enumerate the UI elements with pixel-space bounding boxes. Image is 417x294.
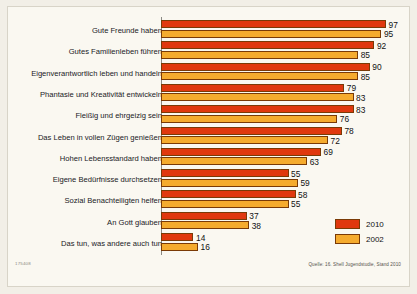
bar-2010 xyxy=(161,127,342,135)
bar-2010 xyxy=(161,190,296,198)
bar-2002 xyxy=(161,157,307,165)
bar-value-label: 38 xyxy=(252,222,261,230)
bar-group: Gute Freunde haben9795 xyxy=(8,20,411,38)
legend-label-2010: 2010 xyxy=(366,220,384,229)
bar-2010 xyxy=(161,148,321,156)
bar-value-label: 55 xyxy=(291,170,300,178)
bar-value-label: 69 xyxy=(324,148,333,156)
bar-value-label: 97 xyxy=(389,21,398,29)
bar-2002 xyxy=(161,243,198,251)
bar-2002 xyxy=(161,72,358,80)
bar-value-label: 90 xyxy=(372,63,381,71)
bar-2002 xyxy=(161,51,358,59)
legend-swatch-2010 xyxy=(335,219,360,229)
bar-value-label: 83 xyxy=(356,94,365,102)
category-label: Eigene Bedürfnisse durchsetzen xyxy=(0,175,162,184)
source-note: Quelle: 16. Shell Jugendstudie, Stand 20… xyxy=(308,262,401,267)
bar-2010 xyxy=(161,233,193,241)
category-label: Eigenverantwortlich leben und handeln xyxy=(0,69,162,78)
legend-swatch-2002 xyxy=(335,234,360,244)
bar-group: Phantasie und Kreativität entwickeln7983 xyxy=(8,84,411,102)
category-label: Phantasie und Kreativität entwickeln xyxy=(0,90,162,99)
bar-group: Das Leben in vollen Zügen genießen7872 xyxy=(8,127,411,145)
chart-inner-frame: Gute Freunde haben9795Gutes Familienlebe… xyxy=(7,6,410,287)
bar-group: Sozial Benachteiligten helfen5855 xyxy=(8,190,411,208)
bar-value-label: 83 xyxy=(356,106,365,114)
bar-2002 xyxy=(161,136,328,144)
bar-2002 xyxy=(161,30,381,38)
bar-value-label: 59 xyxy=(300,179,309,187)
bar-2010 xyxy=(161,212,247,220)
bar-2010 xyxy=(161,84,344,92)
bar-2010 xyxy=(161,20,386,28)
bar-value-label: 55 xyxy=(291,200,300,208)
bar-value-label: 76 xyxy=(340,115,349,123)
bar-group: Eigenverantwortlich leben und handeln908… xyxy=(8,63,411,81)
bar-value-label: 92 xyxy=(377,42,386,50)
bar-value-label: 14 xyxy=(196,234,205,242)
bar-group: Fleißig und ehrgeizig sein8376 xyxy=(8,105,411,123)
legend-label-2002: 2002 xyxy=(366,235,384,244)
bar-value-label: 37 xyxy=(249,212,258,220)
bar-value-label: 58 xyxy=(298,191,307,199)
bar-value-label: 79 xyxy=(347,84,356,92)
bar-group: Eigene Bedürfnisse durchsetzen5559 xyxy=(8,169,411,187)
category-label: Gute Freunde haben xyxy=(0,26,162,35)
bar-value-label: 85 xyxy=(361,73,370,81)
document-id: 175408 xyxy=(15,261,31,266)
bar-2002 xyxy=(161,93,354,101)
bar-2010 xyxy=(161,105,354,113)
bar-2002 xyxy=(161,221,249,229)
bar-group: Hohen Lebensstandard haben6963 xyxy=(8,148,411,166)
legend-item-2002: 2002 xyxy=(335,233,405,246)
bar-2010 xyxy=(161,63,370,71)
chart-card: Gute Freunde haben9795Gutes Familienlebe… xyxy=(0,0,417,294)
bar-2002 xyxy=(161,179,298,187)
bar-value-label: 72 xyxy=(331,137,340,145)
category-label: Hohen Lebensstandard haben xyxy=(0,154,162,163)
category-label: Fleißig und ehrgeizig sein xyxy=(0,111,162,120)
bar-value-label: 95 xyxy=(384,30,393,38)
bar-value-label: 16 xyxy=(201,243,210,251)
category-label: An Gott glauben xyxy=(0,218,162,227)
category-label: Gutes Familienleben führen xyxy=(0,47,162,56)
category-label: Das Leben in vollen Zügen genießen xyxy=(0,133,162,142)
category-label: Sozial Benachteiligten helfen xyxy=(0,196,162,205)
bar-2002 xyxy=(161,200,289,208)
bar-value-label: 85 xyxy=(361,51,370,59)
bar-value-label: 78 xyxy=(344,127,353,135)
category-label: Das tun, was andere auch tun xyxy=(0,239,162,248)
legend-item-2010: 2010 xyxy=(335,218,405,231)
bar-2010 xyxy=(161,41,374,49)
bar-2010 xyxy=(161,169,289,177)
chart-legend: 2010 2002 xyxy=(335,218,405,248)
bar-group: Gutes Familienleben führen9285 xyxy=(8,41,411,59)
bar-value-label: 63 xyxy=(310,158,319,166)
bar-2002 xyxy=(161,115,337,123)
